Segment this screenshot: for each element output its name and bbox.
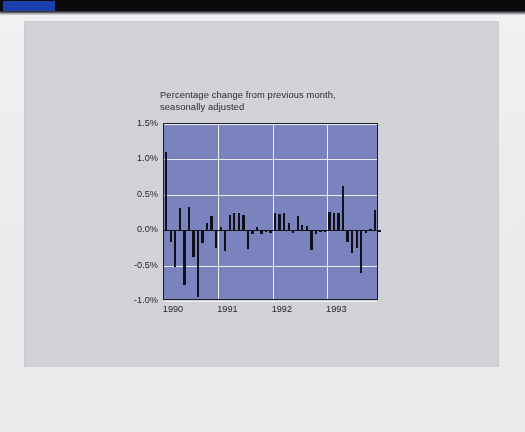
bar xyxy=(165,152,167,230)
bar xyxy=(183,230,185,285)
blue-accent-block xyxy=(3,1,55,11)
bar xyxy=(265,230,267,231)
bar xyxy=(224,230,226,251)
scanned-page: Percentage change from previous month, s… xyxy=(0,0,525,432)
bar xyxy=(310,230,312,250)
bar xyxy=(192,230,194,257)
bar xyxy=(301,225,303,231)
x-axis-tick-label: 1990 xyxy=(163,304,183,314)
bar xyxy=(233,213,235,231)
bar xyxy=(170,230,172,242)
y-axis-tick-label: 0.5% xyxy=(137,189,158,199)
bar xyxy=(206,223,208,230)
bar xyxy=(283,213,285,231)
bar xyxy=(292,230,294,233)
y-axis-tick-label: 1.0% xyxy=(137,153,158,163)
bar xyxy=(315,230,317,234)
bar xyxy=(378,230,380,231)
x-axis-labels: 1990199119921993 xyxy=(163,304,378,320)
x-axis-tick-label: 1991 xyxy=(217,304,237,314)
bar xyxy=(179,208,181,231)
bar xyxy=(278,214,280,230)
bar xyxy=(242,215,244,231)
bar xyxy=(247,230,249,248)
bar xyxy=(360,230,362,272)
y-axis-tick-label: -0.5% xyxy=(134,260,158,270)
bar xyxy=(260,230,262,234)
top-bar-fade xyxy=(0,11,525,15)
bar xyxy=(238,213,240,230)
bar xyxy=(342,186,344,230)
bar xyxy=(251,230,253,234)
bar xyxy=(306,226,308,230)
bar xyxy=(328,212,330,230)
bar xyxy=(229,215,231,231)
bar xyxy=(351,230,353,253)
y-axis-labels: 1.5%1.0%0.5%0.0%-0.5%-1.0% xyxy=(105,123,158,300)
plot-wrapper xyxy=(163,123,378,300)
bar xyxy=(201,230,203,243)
bar xyxy=(210,216,212,230)
bar xyxy=(256,227,258,230)
gridline-horizontal xyxy=(164,301,377,302)
bar xyxy=(215,230,217,248)
bar xyxy=(374,210,376,230)
bar xyxy=(337,213,339,231)
bar xyxy=(319,230,321,231)
bar xyxy=(346,230,348,242)
bar xyxy=(297,216,299,230)
chart-title: Percentage change from previous month, s… xyxy=(160,89,410,112)
x-axis-tick-label: 1992 xyxy=(272,304,292,314)
bar xyxy=(365,230,367,233)
bar xyxy=(356,230,358,248)
y-axis-tick-label: -1.0% xyxy=(134,295,158,305)
bar xyxy=(288,223,290,230)
bar-series xyxy=(164,124,377,299)
bar xyxy=(197,230,199,297)
plot-area xyxy=(163,123,378,300)
bar xyxy=(269,230,271,233)
bar xyxy=(369,229,371,230)
bar xyxy=(174,230,176,267)
bar xyxy=(220,227,222,231)
y-axis-tick-label: 1.5% xyxy=(137,118,158,128)
y-axis-tick-label: 0.0% xyxy=(137,224,158,234)
x-axis-tick-label: 1993 xyxy=(326,304,346,314)
bar xyxy=(324,230,326,232)
bar xyxy=(333,213,335,230)
bar xyxy=(188,207,190,230)
bar xyxy=(274,213,276,230)
